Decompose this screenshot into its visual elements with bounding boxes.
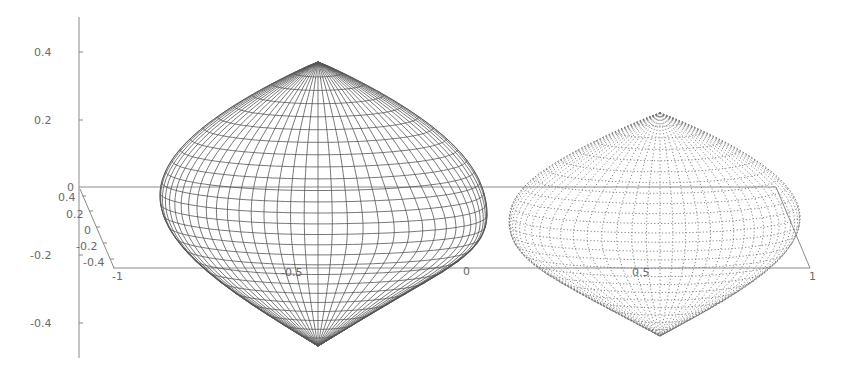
latitude-line bbox=[524, 187, 788, 203]
lobe-outline bbox=[509, 113, 800, 336]
lobe-outline bbox=[160, 62, 487, 346]
latitude-line bbox=[596, 141, 723, 150]
meridian-line bbox=[561, 113, 660, 336]
meridian-line bbox=[660, 113, 795, 336]
meridian-line bbox=[646, 113, 660, 336]
meridian-line bbox=[175, 62, 318, 346]
latitude-line bbox=[175, 237, 481, 255]
x-tick-label: -1 bbox=[112, 270, 123, 283]
meridian-line bbox=[660, 113, 798, 336]
latitude-line bbox=[511, 234, 797, 251]
latitude-line bbox=[168, 226, 485, 245]
latitude-line bbox=[559, 280, 754, 292]
meridian-line bbox=[660, 113, 711, 336]
z-tick-label: -0.2 bbox=[30, 249, 51, 262]
meridian-line bbox=[660, 113, 800, 336]
meridian-line bbox=[660, 113, 734, 336]
latitude-line bbox=[180, 149, 457, 167]
latitude-line bbox=[166, 171, 475, 190]
y-tick-label: -0.2 bbox=[76, 240, 97, 253]
z-axis: 0.4 0.2 0 -0.2 -0.4 bbox=[30, 17, 83, 358]
latitude-line bbox=[163, 215, 487, 235]
meridian-line bbox=[251, 62, 318, 346]
left-lobe-mesh bbox=[160, 62, 487, 346]
z-tick-label: 0.2 bbox=[34, 114, 52, 127]
latitude-line bbox=[161, 204, 487, 224]
surface-plot: 0.4 0.2 0 -0.2 -0.4 0.4 0.2 0 -0.2 -0.4 … bbox=[0, 0, 857, 381]
meridian-line bbox=[513, 113, 660, 336]
meridian-line bbox=[660, 113, 673, 336]
meridian-line bbox=[660, 113, 791, 336]
right-lobe-mesh bbox=[509, 113, 800, 336]
latitude-line bbox=[509, 225, 799, 243]
meridian-line bbox=[632, 113, 660, 336]
meridian-line bbox=[520, 113, 660, 336]
z-tick-label: 0.4 bbox=[34, 46, 52, 59]
x-tick-label: 0 bbox=[463, 265, 470, 278]
y-tick-label: -0.4 bbox=[83, 256, 104, 269]
meridian-line bbox=[660, 113, 799, 336]
meridian-line bbox=[318, 62, 347, 346]
y-tick-label: 0.4 bbox=[58, 191, 76, 204]
y-tick-label: 0 bbox=[84, 224, 91, 237]
latitude-line bbox=[510, 215, 800, 233]
meridian-line bbox=[660, 113, 722, 336]
meridian-line bbox=[540, 113, 660, 336]
z-tick-label: -0.4 bbox=[30, 317, 51, 330]
latitude-line bbox=[517, 197, 794, 214]
x-tick-label: 1 bbox=[809, 270, 816, 283]
meridian-line bbox=[550, 113, 660, 336]
meridian-line bbox=[516, 113, 660, 336]
latitude-line bbox=[574, 290, 740, 301]
latitude-line bbox=[546, 169, 767, 183]
meridian-line bbox=[170, 62, 319, 346]
latitude-line bbox=[561, 160, 755, 172]
y-tick-label: 0.2 bbox=[66, 208, 84, 221]
meridian-line bbox=[660, 113, 785, 336]
